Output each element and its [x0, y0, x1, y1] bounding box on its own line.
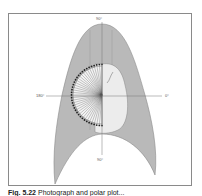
diagram-canvas: [0, 0, 202, 196]
caption-text: Photograph and polar plot...: [38, 189, 124, 196]
label-right-0: 0°: [165, 93, 169, 98]
label-top-90: 90°: [96, 16, 102, 21]
figure-caption: Fig. 5.22 Photograph and polar plot...: [8, 189, 124, 196]
label-left-180: 180°: [36, 93, 44, 98]
caption-number: Fig. 5.22: [8, 189, 36, 196]
label-bottom-90: 90°: [97, 157, 103, 162]
